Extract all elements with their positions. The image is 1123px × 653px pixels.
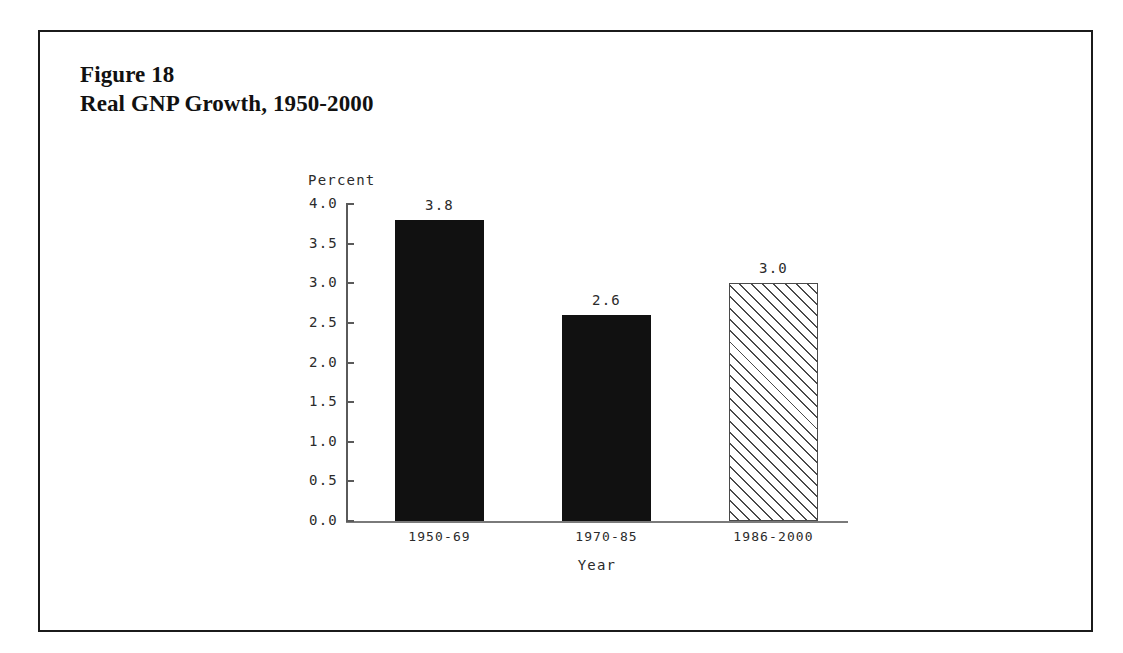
bar-chart-plot: Percent 4.03.53.02.52.01.51.00.50.0 3.81… <box>40 32 1091 630</box>
y-axis-tick <box>346 520 354 522</box>
y-axis-tick-label: 0.5 <box>296 472 338 488</box>
bar-value-label: 2.6 <box>542 292 671 308</box>
y-axis-tick <box>346 282 354 284</box>
bar <box>562 315 651 521</box>
figure-frame: Figure 18 Real GNP Growth, 1950-2000 Per… <box>38 30 1093 632</box>
y-axis-tick-label: 1.5 <box>296 393 338 409</box>
y-axis-tick-label: 4.0 <box>296 195 338 211</box>
y-axis-tick-label: 0.0 <box>296 512 338 528</box>
y-axis-tick <box>346 401 354 403</box>
y-axis-tick <box>346 362 354 364</box>
y-axis-tick <box>346 322 354 324</box>
x-axis-line <box>346 521 848 523</box>
y-axis-tick-label: 1.0 <box>296 433 338 449</box>
y-axis-title: Percent <box>308 172 375 188</box>
y-axis-tick-label: 2.0 <box>296 354 338 370</box>
y-axis-tick <box>346 480 354 482</box>
y-axis-tick <box>346 243 354 245</box>
bar-value-label: 3.0 <box>709 260 838 276</box>
x-axis-category-label: 1986-2000 <box>697 529 850 544</box>
bar-value-label: 3.8 <box>375 197 504 213</box>
x-axis-title: Year <box>346 557 848 573</box>
y-axis-tick-label: 3.5 <box>296 235 338 251</box>
y-axis-tick <box>346 203 354 205</box>
bar <box>395 220 484 521</box>
y-axis-tick-label: 3.0 <box>296 274 338 290</box>
x-axis-category-label: 1950-69 <box>363 529 516 544</box>
bar <box>729 283 818 521</box>
y-axis-tick <box>346 441 354 443</box>
x-axis-category-label: 1970-85 <box>530 529 683 544</box>
bar-hatch-pattern <box>729 283 818 521</box>
y-axis-tick-label: 2.5 <box>296 314 338 330</box>
